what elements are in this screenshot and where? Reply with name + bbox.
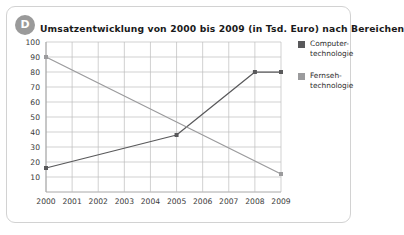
x-tick-label: 2007 <box>219 197 238 206</box>
x-tick-label: 2008 <box>245 197 264 206</box>
series-line <box>46 72 281 168</box>
data-point-marker <box>44 166 48 170</box>
y-tick-label: 60 <box>30 98 40 107</box>
y-tick-label: 30 <box>30 143 40 152</box>
y-tick-label: 40 <box>30 128 40 137</box>
chart-legend: Computer- technologie Fernseh- technolog… <box>298 39 368 103</box>
legend-label-fernseh: Fernseh- technologie <box>310 71 353 90</box>
chart-card: D Umsatzentwicklung von 2000 bis 2009 (i… <box>6 6 351 223</box>
x-tick-label: 2009 <box>271 197 290 206</box>
series-line <box>46 57 281 174</box>
legend-swatch-computer <box>298 41 305 48</box>
legend-item-fernseh: Fernseh- technologie <box>298 71 368 90</box>
y-tick-label: 70 <box>30 83 40 92</box>
legend-swatch-fernseh <box>298 73 305 80</box>
data-point-marker <box>279 172 283 176</box>
y-tick-label: 80 <box>30 68 40 77</box>
y-tick-label: 50 <box>30 113 40 122</box>
x-tick-label: 2001 <box>62 197 81 206</box>
x-tick-label: 2006 <box>193 197 212 206</box>
y-tick-label: 100 <box>26 38 41 47</box>
data-point-marker <box>279 70 283 74</box>
x-tick-label: 2004 <box>141 197 160 206</box>
y-tick-label: 90 <box>30 53 40 62</box>
legend-label-computer: Computer- technologie <box>310 39 353 58</box>
y-tick-label: 10 <box>30 173 40 182</box>
y-tick-label: 20 <box>30 158 40 167</box>
data-point-marker <box>253 70 257 74</box>
legend-item-computer: Computer- technologie <box>298 39 368 58</box>
x-tick-label: 2000 <box>36 197 55 206</box>
data-point-marker <box>175 133 179 137</box>
x-tick-label: 2005 <box>167 197 186 206</box>
x-tick-label: 2003 <box>115 197 134 206</box>
data-point-marker <box>44 55 48 59</box>
x-tick-label: 2002 <box>89 197 108 206</box>
